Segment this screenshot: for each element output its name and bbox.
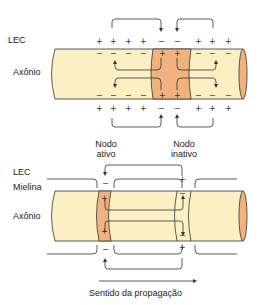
svg-text:+: + — [140, 104, 147, 113]
svg-text:−: − — [140, 49, 147, 58]
svg-text:+: + — [195, 37, 202, 46]
top-outer-charges-top: ++++ −− +++ — [96, 37, 232, 46]
svg-text:+: + — [96, 104, 103, 113]
top-axon-diagram: ++++ −− +++ −−−− ++ −−− −−−− ++ −−− ++++… — [0, 0, 260, 305]
top-inner-charges-top: −−−− ++ −−− — [96, 49, 232, 58]
svg-text:−: − — [96, 49, 103, 58]
myelin-label: Mielina — [13, 183, 42, 192]
svg-text:−: − — [102, 179, 109, 188]
svg-text:−: − — [195, 49, 202, 58]
svg-text:+: + — [140, 37, 147, 46]
svg-text:+: + — [225, 104, 232, 113]
svg-text:−: − — [225, 91, 232, 100]
svg-text:+: + — [174, 49, 181, 58]
svg-text:−: − — [195, 91, 202, 100]
top-axon-cylinder — [52, 49, 248, 99]
svg-text:−: − — [125, 49, 132, 58]
svg-text:+: + — [125, 37, 132, 46]
svg-text:−: − — [179, 231, 186, 240]
svg-text:−: − — [174, 37, 181, 46]
svg-text:+: + — [179, 243, 186, 252]
svg-text:−: − — [225, 49, 232, 58]
axon-label-bottom: Axônio — [13, 212, 41, 221]
svg-text:+: + — [101, 194, 108, 203]
top-inner-charges-bottom: −−−− ++ −−− — [96, 91, 232, 100]
lec-label-bottom: LEC — [13, 168, 31, 177]
svg-text:−: − — [110, 91, 117, 100]
svg-text:+: + — [101, 227, 108, 236]
top-outer-charges-bottom: ++++ −− +++ — [96, 104, 232, 113]
svg-text:−: − — [158, 104, 165, 113]
svg-text:−: − — [209, 91, 216, 100]
svg-text:+: + — [110, 37, 117, 46]
svg-text:+: + — [225, 37, 232, 46]
svg-text:+: + — [209, 37, 216, 46]
active-node-label: Nodo ativo — [86, 140, 126, 159]
svg-text:−: − — [174, 104, 181, 113]
svg-text:+: + — [96, 37, 103, 46]
propagation-label: Sentido da propagação — [89, 289, 182, 298]
svg-text:−: − — [102, 245, 109, 254]
svg-text:−: − — [96, 91, 103, 100]
svg-text:−: − — [110, 49, 117, 58]
svg-text:+: + — [179, 175, 186, 184]
svg-text:+: + — [110, 104, 117, 113]
svg-text:+: + — [209, 104, 216, 113]
svg-text:−: − — [125, 91, 132, 100]
svg-text:+: + — [174, 91, 181, 100]
svg-text:−: − — [209, 49, 216, 58]
svg-text:+: + — [159, 91, 166, 100]
svg-text:−: − — [140, 91, 147, 100]
inactive-node-label: Nodo inativo — [162, 140, 206, 159]
bottom-axon-cylinder — [52, 191, 248, 241]
svg-text:−: − — [158, 37, 165, 46]
svg-text:+: + — [159, 49, 166, 58]
svg-text:+: + — [195, 104, 202, 113]
svg-text:−: − — [179, 189, 186, 198]
svg-text:+: + — [125, 104, 132, 113]
